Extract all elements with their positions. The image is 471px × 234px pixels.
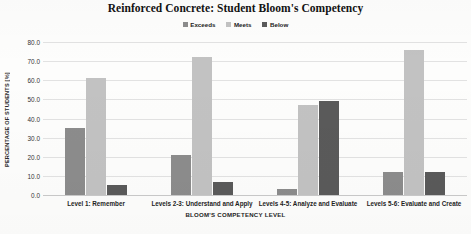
bar-chart: Reinforced Concrete: Student Bloom's Com…	[0, 0, 471, 234]
y-axis-tick-label: 40.0	[28, 115, 40, 122]
bar-meets[interactable]	[298, 105, 318, 195]
y-axis-tick-label: 0.0	[31, 192, 40, 199]
y-axis-tick-label: 80.0	[28, 39, 40, 46]
bar-below[interactable]	[213, 182, 233, 195]
bar-exceeds[interactable]	[383, 172, 403, 195]
x-axis-title: BLOOM'S COMPETENCY LEVEL	[0, 211, 471, 218]
x-axis-tick-label: Levels 2-3: Understand and Apply	[151, 200, 252, 207]
bar-group	[149, 42, 255, 195]
bar-below[interactable]	[319, 101, 339, 195]
x-axis-tick-label: Levels 5-6: Evaluate and Create	[367, 200, 462, 207]
y-axis-title: PERCENTAGE OF STUDENTS [%]	[2, 60, 12, 180]
y-axis-tick-label: 20.0	[28, 153, 40, 160]
bar-below[interactable]	[425, 172, 445, 195]
y-axis-tick-label: 10.0	[28, 172, 40, 179]
y-axis-tick-label: 50.0	[28, 96, 40, 103]
bar-group	[255, 42, 361, 195]
x-axis-tick-label: Levels 4-5: Analyze and Evaluate	[259, 200, 357, 207]
y-axis-tick-label: 70.0	[28, 58, 40, 65]
y-axis-tick-label: 30.0	[28, 134, 40, 141]
x-axis-tick-label: Level 1: Remember	[67, 200, 125, 207]
bar-below[interactable]	[107, 185, 127, 195]
bar-exceeds[interactable]	[171, 155, 191, 195]
bars-layer	[43, 42, 467, 195]
bar-group	[361, 42, 467, 195]
plot-area: PERCENTAGE OF STUDENTS [%] 0.010.020.030…	[0, 0, 471, 234]
bar-group	[43, 42, 149, 195]
bar-exceeds[interactable]	[65, 128, 85, 195]
bar-exceeds[interactable]	[277, 189, 297, 195]
bar-meets[interactable]	[86, 78, 106, 195]
bar-meets[interactable]	[192, 57, 212, 195]
y-axis-tick-label: 60.0	[28, 77, 40, 84]
bar-meets[interactable]	[404, 50, 424, 195]
y-axis-tick-labels: 0.010.020.030.040.050.060.070.080.0	[14, 42, 40, 195]
axis-baseline	[43, 195, 467, 196]
